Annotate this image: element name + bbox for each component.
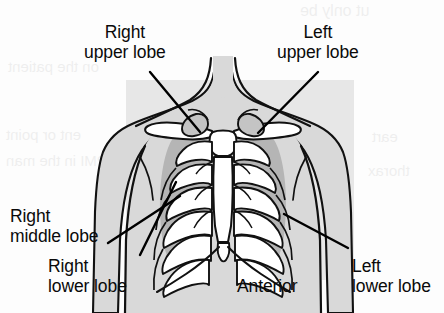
xiphoid-process (218, 243, 230, 262)
label-right-middle-lobe-line-1: Right (10, 206, 98, 226)
label-left-upper-lobe-line-2: upper lobe (277, 42, 359, 62)
label-right-middle-lobe: Rightmiddle lobe (10, 206, 98, 247)
label-right-upper-lobe: Rightupper lobe (84, 22, 166, 63)
sternum-body (213, 157, 232, 242)
lung-lobes-figure: ut only beon the patientent or pointring… (0, 0, 444, 313)
neck-fill (213, 56, 233, 98)
label-left-upper-lobe-line-1: Left (277, 22, 359, 42)
label-right-upper-lobe-line-2: upper lobe (84, 42, 166, 62)
label-left-lower-lobe: Leftlower lobe (352, 256, 431, 297)
label-right-lower-lobe-line-1: Right (48, 256, 127, 276)
label-left-lower-lobe-line-2: lower lobe (352, 276, 431, 296)
view-orientation-label: Anterior (237, 276, 297, 296)
label-left-upper-lobe: Leftupper lobe (277, 22, 359, 63)
label-left-lower-lobe-line-1: Left (352, 256, 431, 276)
label-right-middle-lobe-line-2: middle lobe (10, 226, 98, 246)
label-right-lower-lobe-line-2: lower lobe (48, 276, 127, 296)
label-right-upper-lobe-line-1: Right (84, 22, 166, 42)
manubrium (210, 131, 237, 157)
label-right-lower-lobe: Rightlower lobe (48, 256, 127, 297)
